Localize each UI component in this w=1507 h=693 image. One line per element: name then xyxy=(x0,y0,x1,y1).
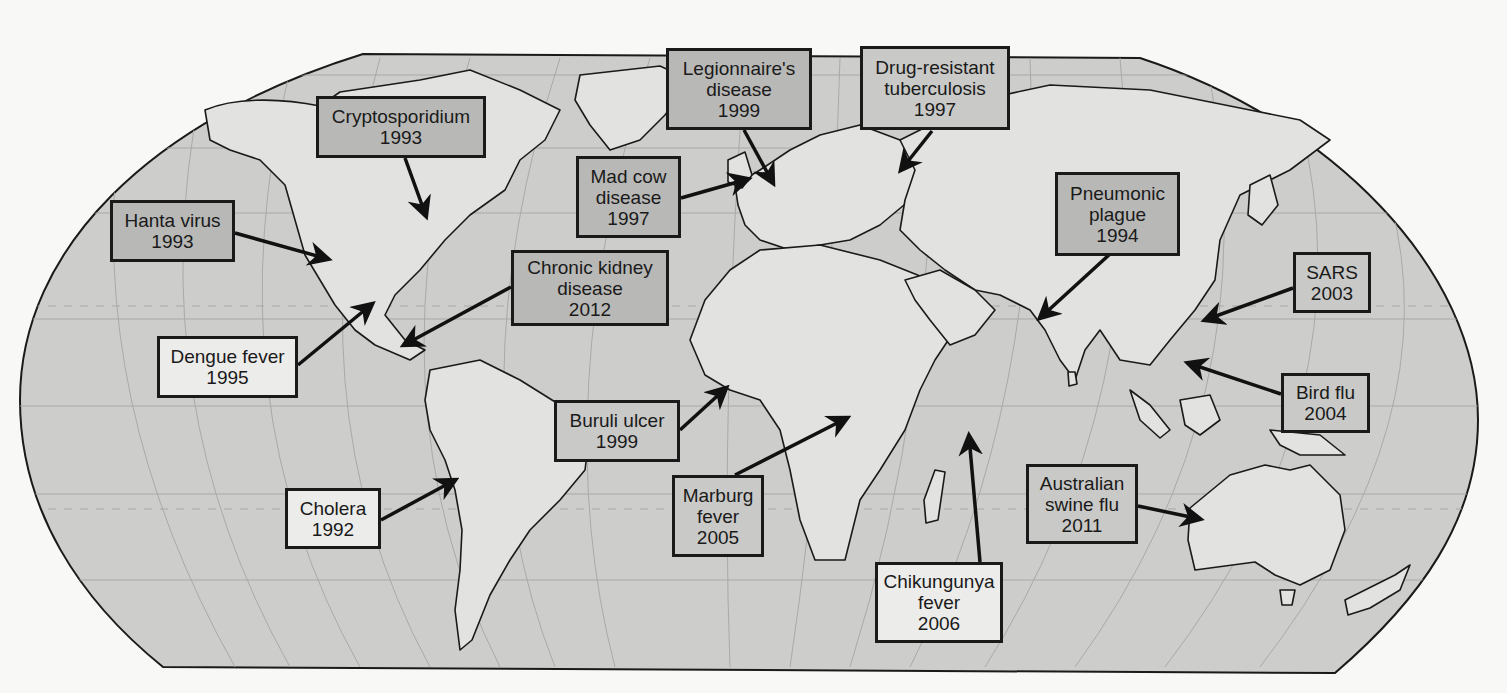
label-text: Bird flu xyxy=(1296,382,1355,403)
label-buruli-ulcer: Buruli ulcer1999 xyxy=(554,400,680,462)
label-hanta-virus: Hanta virus1993 xyxy=(110,200,235,262)
label-year: 2005 xyxy=(697,527,739,548)
label-text: Pneumonic xyxy=(1070,183,1165,204)
label-text: Mad cow xyxy=(590,166,666,187)
label-year: 1992 xyxy=(312,519,354,540)
label-text: Chronic kidney xyxy=(527,257,653,278)
label-drug-resistant-tb: Drug-resistanttuberculosis1997 xyxy=(860,46,1010,130)
label-cholera: Cholera1992 xyxy=(285,488,381,549)
sri-lanka xyxy=(1068,372,1077,386)
label-australian-swine-flu: Australianswine flu2011 xyxy=(1026,464,1138,544)
label-text: Marburg xyxy=(683,485,754,506)
label-sars: SARS2003 xyxy=(1293,252,1371,313)
label-marburg-fever: Marburgfever2005 xyxy=(672,475,764,557)
label-text: Cryptosporidium xyxy=(332,106,470,127)
tasmania xyxy=(1280,590,1295,605)
label-legionnaires: Legionnaire'sdisease1999 xyxy=(666,48,812,130)
label-year: 2004 xyxy=(1304,403,1346,424)
label-year: 2012 xyxy=(569,299,611,320)
label-year: 1994 xyxy=(1096,225,1138,246)
label-text: Australian xyxy=(1040,473,1125,494)
label-year: 1995 xyxy=(206,367,248,388)
label-pneumonic-plague: Pneumonicplague1994 xyxy=(1055,172,1180,256)
label-text: Hanta virus xyxy=(124,210,220,231)
label-text: Legionnaire's xyxy=(683,58,795,79)
label-text: disease xyxy=(706,79,772,100)
label-dengue-fever: Dengue fever1995 xyxy=(157,336,298,398)
label-text: fever xyxy=(918,592,960,613)
label-text: Buruli ulcer xyxy=(569,410,664,431)
label-text: tuberculosis xyxy=(884,78,985,99)
label-year: 1999 xyxy=(596,431,638,452)
label-chronic-kidney: Chronic kidneydisease2012 xyxy=(511,250,669,326)
label-year: 2011 xyxy=(1062,515,1103,536)
label-bird-flu: Bird flu2004 xyxy=(1281,373,1370,433)
label-text: Dengue fever xyxy=(170,346,284,367)
label-year: 1993 xyxy=(151,231,193,252)
label-text: fever xyxy=(697,506,739,527)
label-cryptosporidium: Cryptosporidium1993 xyxy=(316,96,486,158)
label-text: Chikungunya xyxy=(884,571,995,592)
label-text: disease xyxy=(596,187,662,208)
label-text: Drug-resistant xyxy=(875,57,994,78)
label-mad-cow: Mad cowdisease1997 xyxy=(576,156,681,238)
label-chikungunya: Chikungunyafever2006 xyxy=(875,562,1003,643)
label-text: swine flu xyxy=(1045,494,1119,515)
label-text: SARS xyxy=(1306,262,1358,283)
label-year: 1999 xyxy=(718,100,760,121)
label-year: 1997 xyxy=(914,99,956,120)
label-year: 2003 xyxy=(1311,283,1353,304)
label-text: plague xyxy=(1089,204,1146,225)
label-text: Cholera xyxy=(300,498,367,519)
label-year: 1993 xyxy=(380,127,422,148)
label-text: disease xyxy=(557,278,623,299)
label-year: 2006 xyxy=(918,613,960,634)
label-year: 1997 xyxy=(607,208,649,229)
